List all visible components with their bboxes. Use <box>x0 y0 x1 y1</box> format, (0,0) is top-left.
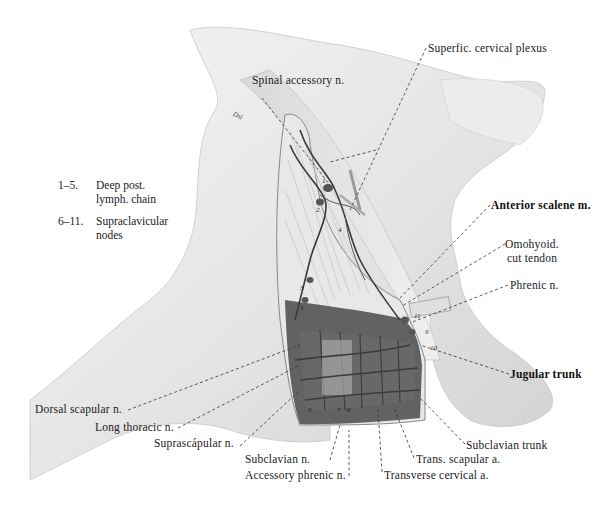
label-accessory-phrenic-n: Accessory phrenic n. <box>245 469 346 482</box>
svg-text:7: 7 <box>337 406 341 414</box>
label-transverse-cervical-a: Transverse cervical a. <box>384 469 489 482</box>
legend-row-deep-post-lymph-chain: 1–5. Deep post. lymph. chain <box>58 178 168 206</box>
label-anterior-scalene-m: Anterior scalene m. <box>491 199 591 212</box>
label-dorsal-scapular-n: Dorsal scapular n. <box>35 403 122 416</box>
legend-range: 6–11. <box>58 214 96 242</box>
svg-text:9: 9 <box>425 328 429 336</box>
legend-description: Supraclavicular nodes <box>96 214 168 242</box>
label-long-thoracic-n: Long thoracic n. <box>95 421 174 434</box>
label-superfic-cervical-plexus: Superfic. cervical plexus <box>428 42 547 55</box>
svg-text:2: 2 <box>316 206 320 214</box>
svg-text:1: 1 <box>322 177 326 185</box>
svg-text:3: 3 <box>299 284 304 292</box>
legend-text-line1: Deep post. <box>96 179 145 191</box>
legend-range: 1–5. <box>58 178 96 206</box>
svg-text:8: 8 <box>347 406 351 414</box>
label-jugular-trunk: Jugular trunk <box>510 368 582 381</box>
svg-text:6: 6 <box>308 406 312 414</box>
legend-row-supraclavicular-nodes: 6–11. Supraclavicular nodes <box>58 214 168 242</box>
legend-text-line2: lymph. chain <box>96 193 156 205</box>
legend: 1–5. Deep post. lymph. chain 6–11. Supra… <box>58 178 168 250</box>
label-omohyoid-line1: Omohyoid. <box>505 238 559 251</box>
svg-text:11: 11 <box>414 312 420 320</box>
legend-text-line2: nodes <box>96 229 123 241</box>
svg-text:5: 5 <box>300 304 304 312</box>
legend-description: Deep post. lymph. chain <box>96 178 156 206</box>
label-trans-scapular-a: Trans. scapular a. <box>416 453 500 466</box>
label-phrenic-n: Phrenic n. <box>510 279 559 292</box>
label-omohyoid-line2: cut tendon <box>507 252 557 265</box>
label-subclavian-trunk: Subclavian trunk <box>466 439 547 452</box>
legend-text-line1: Supraclavicular <box>96 215 168 227</box>
label-spinal-accessory-n: Spinal accessory n. <box>252 74 344 87</box>
label-subclavian-n: Subclavian n. <box>245 453 310 466</box>
svg-text:10: 10 <box>430 344 438 352</box>
label-suprascapular-n: Suprascápular n. <box>154 437 234 450</box>
svg-text:4: 4 <box>338 226 342 234</box>
